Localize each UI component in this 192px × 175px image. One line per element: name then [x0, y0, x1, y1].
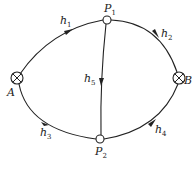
node-label-A: A	[6, 86, 15, 99]
edge-label-h2: h2	[161, 27, 173, 42]
edge-label-h4: h4	[155, 123, 167, 138]
node-label-B: B	[183, 74, 192, 87]
edge-label-h1: h1	[60, 14, 72, 29]
node-label-P1: P1	[103, 2, 116, 17]
arrow-h1-icon	[64, 29, 73, 35]
edge-label-h5: h5	[84, 72, 96, 87]
node-P2	[96, 135, 104, 143]
edge-h3	[19, 84, 96, 139]
node-A	[11, 72, 23, 84]
network-diagram: A B P1 P2 h1 h2 h3 h4 h5	[0, 0, 192, 175]
edge-h1	[20, 20, 103, 74]
node-P1	[103, 16, 111, 24]
edge-label-h3: h3	[40, 126, 52, 141]
node-label-P2: P2	[94, 145, 107, 160]
edge-h4	[104, 84, 178, 139]
